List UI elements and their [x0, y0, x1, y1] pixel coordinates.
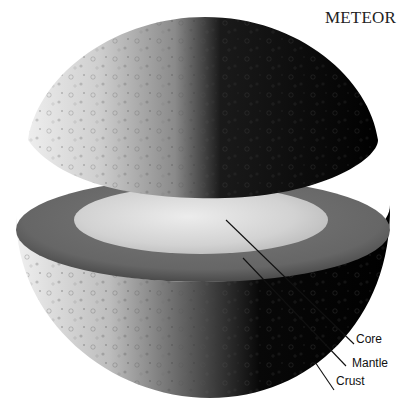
upper-cap: [28, 17, 378, 198]
mantle-label: Mantle: [352, 356, 388, 370]
figure-title: METEOR: [325, 8, 396, 28]
meteor-cutaway-illustration: [0, 0, 406, 404]
crust-leader-line: [315, 362, 334, 390]
core-label: Core: [356, 332, 382, 346]
crust-label: Crust: [336, 374, 365, 388]
